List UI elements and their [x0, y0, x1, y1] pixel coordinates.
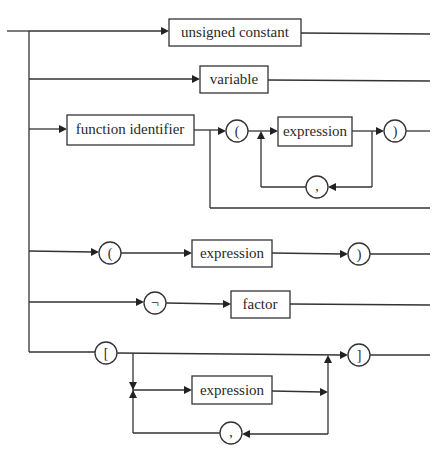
- arrow-icon: [270, 127, 278, 135]
- arrow-icon: [340, 351, 348, 359]
- arrow-icon: [324, 355, 332, 363]
- arrow-icon: [184, 386, 192, 394]
- label-function-identifier: function identifier: [76, 121, 185, 137]
- arrow-icon: [91, 248, 99, 256]
- arrow-icon: [129, 382, 137, 390]
- syntax-diagram: unsigned constant variable function iden…: [0, 0, 445, 463]
- branch-set: [ ] expression ,: [29, 342, 430, 444]
- close-paren-label: ): [393, 124, 398, 140]
- arrow-icon: [218, 127, 226, 135]
- label-expression-paren: expression: [200, 245, 265, 261]
- arrow-icon: [59, 125, 67, 133]
- entry-line: [7, 31, 29, 352]
- open-paren-label: (: [235, 124, 240, 140]
- arrow-icon: [340, 250, 348, 258]
- not-label: ¬: [151, 295, 159, 310]
- arrow-icon: [136, 298, 144, 306]
- arrow-icon: [161, 27, 169, 35]
- arrow-icon: [192, 75, 200, 83]
- label-unsigned-constant: unsigned constant: [181, 24, 290, 40]
- arrow-icon: [184, 249, 192, 257]
- label-factor: factor: [243, 296, 278, 312]
- arrow-icon: [242, 430, 250, 438]
- close-bracket-label: ]: [357, 348, 362, 363]
- open-paren-label: (: [108, 246, 113, 262]
- arrow-icon: [376, 127, 384, 135]
- arrow-icon: [223, 300, 231, 308]
- label-variable: variable: [210, 71, 259, 87]
- arrow-icon: [328, 183, 336, 191]
- open-bracket-label: [: [104, 346, 109, 361]
- branch-not-factor: ¬ factor: [29, 291, 430, 318]
- branch-variable: variable: [29, 66, 430, 93]
- label-expression-set: expression: [200, 382, 265, 398]
- arrow-icon: [257, 131, 265, 139]
- arrow-icon: [320, 388, 328, 396]
- comma-label: ,: [315, 179, 319, 194]
- close-paren-label: ): [357, 247, 362, 263]
- branch-parenthesized-expression: ( expression ): [29, 240, 430, 267]
- branch-function-call: function identifier ( expression ) ,: [29, 115, 430, 208]
- label-expression-args: expression: [283, 123, 348, 139]
- arrow-icon: [129, 390, 137, 398]
- comma-label: ,: [229, 425, 233, 440]
- branch-unsigned-constant: unsigned constant: [29, 19, 430, 46]
